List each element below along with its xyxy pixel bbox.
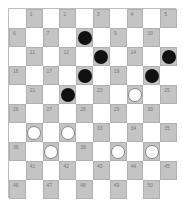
light-square xyxy=(26,180,43,199)
square-41[interactable]: 41 xyxy=(26,161,43,180)
square-number: 35 xyxy=(164,126,170,131)
light-square xyxy=(26,142,43,161)
square-25[interactable]: 25 xyxy=(160,85,177,104)
white-piece[interactable] xyxy=(128,88,142,102)
checkers-board: 1234567910111214161719212325262728293033… xyxy=(8,8,176,198)
light-square xyxy=(26,28,43,47)
light-square xyxy=(110,123,127,142)
light-square xyxy=(9,47,26,66)
square-32[interactable] xyxy=(59,123,76,142)
black-piece[interactable] xyxy=(145,69,159,83)
square-26[interactable]: 26 xyxy=(9,104,26,123)
square-13[interactable] xyxy=(93,47,110,66)
square-number: 26 xyxy=(13,107,19,112)
light-square xyxy=(127,142,144,161)
square-15[interactable] xyxy=(160,47,177,66)
light-square xyxy=(43,9,60,28)
light-square xyxy=(160,142,177,161)
square-35[interactable]: 35 xyxy=(160,123,177,142)
light-square xyxy=(9,161,26,180)
square-24[interactable] xyxy=(127,85,144,104)
square-20[interactable] xyxy=(143,66,160,85)
black-piece[interactable] xyxy=(78,69,92,83)
square-33[interactable]: 33 xyxy=(93,123,110,142)
square-18[interactable] xyxy=(76,66,93,85)
light-square xyxy=(110,161,127,180)
square-number: 21 xyxy=(30,88,36,93)
light-square xyxy=(26,104,43,123)
square-number: 49 xyxy=(114,183,120,188)
light-square xyxy=(76,123,93,142)
square-4[interactable]: 4 xyxy=(127,9,144,28)
square-40[interactable] xyxy=(143,142,160,161)
square-29[interactable]: 29 xyxy=(110,104,127,123)
light-square xyxy=(9,85,26,104)
square-30[interactable]: 30 xyxy=(143,104,160,123)
black-piece[interactable] xyxy=(94,50,108,64)
square-number: 36 xyxy=(13,145,19,150)
square-number: 11 xyxy=(30,50,35,55)
square-47[interactable]: 47 xyxy=(43,180,60,199)
black-piece[interactable] xyxy=(78,31,92,45)
light-square xyxy=(59,104,76,123)
square-number: 33 xyxy=(97,126,103,131)
square-number: 5 xyxy=(164,12,167,17)
square-19[interactable]: 19 xyxy=(110,66,127,85)
light-square xyxy=(59,28,76,47)
white-piece[interactable] xyxy=(27,126,41,140)
square-36[interactable]: 36 xyxy=(9,142,26,161)
square-31[interactable] xyxy=(26,123,43,142)
black-piece[interactable] xyxy=(162,50,176,64)
square-49[interactable]: 49 xyxy=(110,180,127,199)
square-43[interactable]: 43 xyxy=(93,161,110,180)
light-square xyxy=(110,47,127,66)
square-46[interactable]: 46 xyxy=(9,180,26,199)
square-6[interactable]: 6 xyxy=(9,28,26,47)
square-8[interactable] xyxy=(76,28,93,47)
square-2[interactable]: 2 xyxy=(59,9,76,28)
square-12[interactable]: 12 xyxy=(59,47,76,66)
square-23[interactable]: 23 xyxy=(93,85,110,104)
square-9[interactable]: 9 xyxy=(110,28,127,47)
square-39[interactable] xyxy=(110,142,127,161)
light-square xyxy=(43,47,60,66)
square-5[interactable]: 5 xyxy=(160,9,177,28)
square-number: 4 xyxy=(131,12,134,17)
square-3[interactable]: 3 xyxy=(93,9,110,28)
light-square xyxy=(143,9,160,28)
square-45[interactable]: 45 xyxy=(160,161,177,180)
light-square xyxy=(59,66,76,85)
white-piece[interactable] xyxy=(145,145,159,159)
square-1[interactable]: 1 xyxy=(26,9,43,28)
square-number: 14 xyxy=(131,50,137,55)
square-34[interactable]: 34 xyxy=(127,123,144,142)
square-number: 2 xyxy=(63,12,66,17)
square-11[interactable]: 11 xyxy=(26,47,43,66)
white-piece[interactable] xyxy=(44,145,58,159)
square-38[interactable]: 38 xyxy=(76,142,93,161)
square-7[interactable]: 7 xyxy=(43,28,60,47)
square-14[interactable]: 14 xyxy=(127,47,144,66)
square-22[interactable] xyxy=(59,85,76,104)
square-17[interactable]: 17 xyxy=(43,66,60,85)
square-16[interactable]: 16 xyxy=(9,66,26,85)
square-10[interactable]: 10 xyxy=(143,28,160,47)
square-37[interactable] xyxy=(43,142,60,161)
square-21[interactable]: 21 xyxy=(26,85,43,104)
square-50[interactable]: 50 xyxy=(143,180,160,199)
square-number: 9 xyxy=(114,31,117,36)
square-42[interactable]: 42 xyxy=(59,161,76,180)
black-piece[interactable] xyxy=(61,88,75,102)
square-number: 50 xyxy=(147,183,153,188)
square-44[interactable]: 44 xyxy=(127,161,144,180)
white-piece[interactable] xyxy=(111,145,125,159)
square-28[interactable]: 28 xyxy=(76,104,93,123)
white-piece[interactable] xyxy=(61,126,75,140)
light-square xyxy=(160,180,177,199)
square-48[interactable]: 48 xyxy=(76,180,93,199)
light-square xyxy=(43,161,60,180)
square-27[interactable]: 27 xyxy=(43,104,60,123)
light-square xyxy=(93,28,110,47)
light-square xyxy=(93,180,110,199)
light-square xyxy=(127,28,144,47)
